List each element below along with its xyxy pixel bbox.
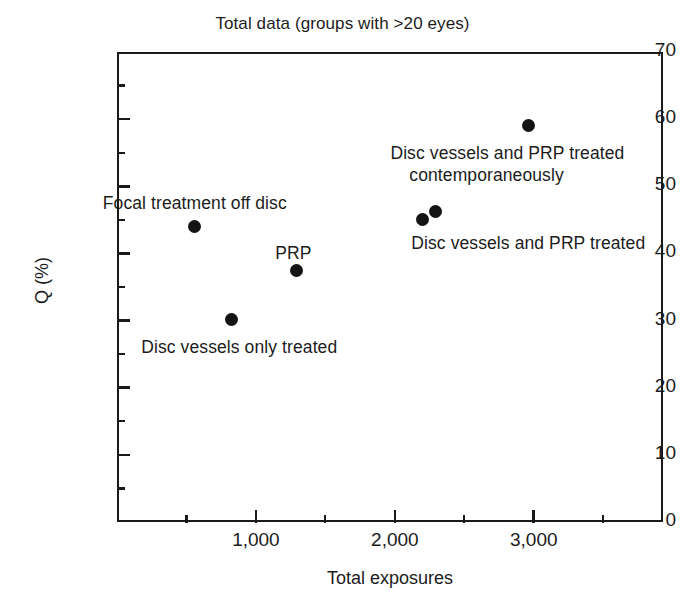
y-axis-tick-label: 10 [579,442,685,464]
x-axis-minor-tick [324,515,326,523]
y-axis-major-tick [117,118,130,121]
y-axis-minor-tick [117,420,125,422]
x-axis-tick-label: 3,000 [474,529,594,551]
data-point-marker [225,313,238,326]
data-point-marker [522,119,535,132]
x-axis-major-tick [255,510,258,523]
scatter-chart-figure: Total data (groups with >20 eyes) 010203… [0,0,685,613]
y-axis-minor-tick [117,219,125,221]
point-annotation-label: PRP [275,242,311,264]
x-axis-minor-tick [185,515,187,523]
y-axis-minor-tick [117,84,125,86]
point-annotation-label: Focal treatment off disc [103,192,287,214]
y-axis-tick-label: 60 [579,106,685,128]
y-axis-major-tick [117,454,130,457]
point-annotation-label: Disc vessels only treated [141,336,337,358]
y-axis-major-tick [117,386,130,389]
y-axis-minor-tick [117,353,125,355]
chart-title: Total data (groups with >20 eyes) [0,14,685,34]
y-axis-minor-tick [117,152,125,154]
point-annotation-label: contemporaneously [409,164,563,186]
x-axis-label: Total exposures [117,568,663,589]
y-axis-tick-label: 70 [579,39,685,61]
y-axis-minor-tick [117,487,125,489]
x-axis-major-tick [532,510,535,523]
y-axis-tick-label: 20 [579,375,685,397]
point-annotation-label: Disc vessels and PRP treated [411,232,645,254]
x-axis-minor-tick [463,515,465,523]
x-axis-tick-label: 1,000 [196,529,316,551]
y-axis-major-tick [117,319,130,322]
y-axis-minor-tick [117,286,125,288]
y-axis-major-tick [117,252,130,255]
y-axis-tick-label: 30 [579,308,685,330]
x-axis-tick-label: 2,000 [335,529,455,551]
x-axis-major-tick [394,510,397,523]
y-axis-major-tick [117,185,130,188]
point-annotation-label: Disc vessels and PRP treated [390,142,624,164]
y-axis-label: Q (%) [32,221,53,341]
y-axis-tick-label: 0 [579,509,685,531]
y-axis-tick-label: 50 [579,173,685,195]
data-point-marker [429,205,442,218]
data-point-marker [290,264,303,277]
